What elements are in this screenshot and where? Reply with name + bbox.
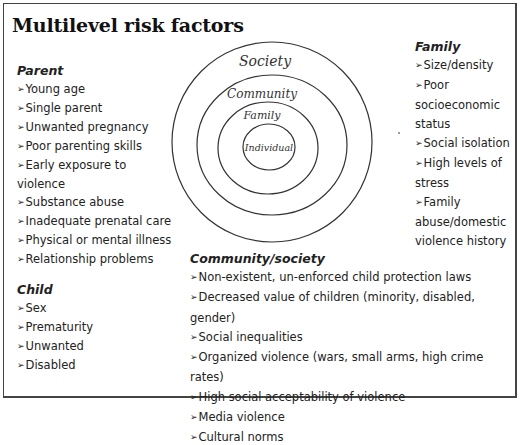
arrow-bullet-icon: ➢	[17, 318, 25, 336]
family-risk-factors: Family ➢Size/density ➢Poor socioeconomic…	[415, 37, 515, 251]
community-society-risk-factors: Community/society ➢Non-existent, un-enfo…	[190, 249, 520, 445]
arrow-bullet-icon: ➢	[415, 154, 423, 173]
arrow-bullet-icon: ➢	[17, 99, 25, 117]
arrow-bullet-icon: ➢	[17, 212, 25, 230]
list-item: ➢Single parent	[17, 99, 202, 118]
arrow-bullet-icon: ➢	[415, 76, 423, 95]
arrow-bullet-icon: ➢	[190, 288, 198, 307]
list-item: ➢Poor socioeconomic status	[415, 76, 515, 134]
list-item: ➢Early exposure to violence	[17, 156, 167, 193]
list-item: ➢High levels of stress	[415, 154, 515, 193]
community-heading: Community/society	[190, 249, 520, 268]
arrow-bullet-icon: ➢	[17, 231, 25, 249]
list-item: ➢Family abuse/domestic violence history	[415, 193, 515, 251]
stray-dot	[398, 132, 400, 134]
list-item: ➢Relationship problems	[17, 250, 202, 269]
list-item: ➢Size/density	[415, 56, 515, 76]
list-item: ➢Social isolation	[415, 134, 515, 154]
arrow-bullet-icon: ➢	[190, 428, 198, 445]
arrow-bullet-icon: ➢	[17, 299, 25, 317]
arrow-bullet-icon: ➢	[415, 134, 423, 153]
arrow-bullet-icon: ➢	[17, 193, 25, 211]
list-item: ➢Unwanted pregnancy	[17, 118, 202, 137]
slide-title: Multilevel risk factors	[12, 14, 244, 36]
arrow-bullet-icon: ➢	[190, 328, 198, 347]
community-list: ➢Non-existent, un-enforced child protect…	[190, 268, 520, 445]
list-item: ➢Physical or mental illness	[17, 231, 202, 250]
arrow-bullet-icon: ➢	[17, 137, 25, 155]
parent-risk-factors: Parent ➢Young age ➢Single parent ➢Unwant…	[17, 61, 202, 269]
list-item: ➢Unwanted	[17, 337, 167, 356]
arrow-bullet-icon: ➢	[17, 337, 25, 355]
arrow-bullet-icon: ➢	[190, 348, 198, 367]
arrow-bullet-icon: ➢	[190, 268, 198, 287]
arrow-bullet-icon: ➢	[415, 56, 423, 75]
child-list: ➢Sex ➢Prematurity ➢Unwanted ➢Disabled	[17, 299, 167, 375]
arrow-bullet-icon: ➢	[415, 193, 423, 212]
arrow-bullet-icon: ➢	[17, 356, 25, 374]
arrow-bullet-icon: ➢	[17, 156, 25, 174]
list-item: ➢Inadequate prenatal care	[17, 212, 202, 231]
arrow-bullet-icon: ➢	[17, 250, 25, 268]
list-item: ➢Young age	[17, 80, 202, 99]
list-item: ➢Disabled	[17, 356, 167, 375]
arrow-bullet-icon: ➢	[190, 408, 198, 427]
arrow-bullet-icon: ➢	[17, 80, 25, 98]
family-list: ➢Size/density ➢Poor socioeconomic status…	[415, 56, 515, 251]
list-item: ➢Social inequalities	[190, 328, 520, 348]
list-item: ➢Poor parenting skills	[17, 137, 202, 156]
arrow-bullet-icon: ➢	[190, 388, 198, 407]
list-item: ➢Decreased value of children (minority, …	[190, 288, 520, 328]
list-item: ➢High social acceptability of violence	[190, 388, 520, 408]
list-item: ➢Organized violence (wars, small arms, h…	[190, 348, 520, 388]
list-item: ➢Prematurity	[17, 318, 167, 337]
arrow-bullet-icon: ➢	[17, 118, 25, 136]
parent-heading: Parent	[17, 61, 202, 80]
list-item: ➢Cultural norms	[190, 428, 520, 445]
list-item: ➢Substance abuse	[17, 193, 202, 212]
list-item: ➢Sex	[17, 299, 167, 318]
child-heading: Child	[17, 280, 167, 299]
list-item: ➢Non-existent, un-enforced child protect…	[190, 268, 520, 288]
list-item: ➢Media violence	[190, 408, 520, 428]
parent-list: ➢Young age ➢Single parent ➢Unwanted preg…	[17, 80, 202, 269]
family-heading: Family	[415, 37, 515, 56]
child-risk-factors: Child ➢Sex ➢Prematurity ➢Unwanted ➢Disab…	[17, 280, 167, 375]
